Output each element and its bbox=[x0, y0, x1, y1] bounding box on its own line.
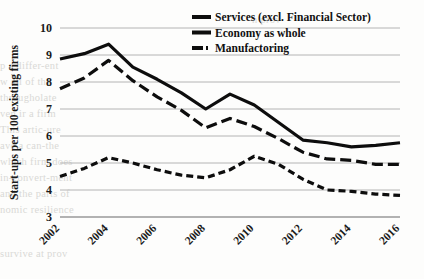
y-tick-label: 8 bbox=[46, 75, 52, 89]
series-lines bbox=[60, 44, 400, 195]
y-tick-label: 9 bbox=[46, 48, 52, 62]
y-axis-title: Start-ups per 100 existing firms bbox=[8, 44, 21, 200]
chart-legend: Services (excl. Financial Sector)Economy… bbox=[192, 11, 371, 55]
x-tick-label: 2006 bbox=[134, 222, 159, 247]
y-axis-tick-labels: 345678910 bbox=[40, 21, 52, 224]
x-tick-label: 2016 bbox=[377, 222, 402, 247]
y-tick-label: 6 bbox=[46, 129, 52, 143]
y-tick-label: 10 bbox=[40, 21, 52, 35]
line-chart: 345678910 200220042006200820102012201420… bbox=[0, 0, 424, 279]
x-tick-label: 2002 bbox=[37, 222, 62, 247]
gridlines bbox=[60, 28, 400, 217]
x-tick-label: 2004 bbox=[85, 222, 110, 247]
legend-label: Manufactoring bbox=[215, 42, 289, 55]
legend-label: Economy as whole bbox=[215, 27, 306, 40]
legend-label: Services (excl. Financial Sector) bbox=[215, 11, 371, 24]
y-tick-label: 3 bbox=[46, 210, 52, 224]
x-tick-label: 2014 bbox=[328, 222, 353, 247]
series-line-0 bbox=[60, 44, 400, 147]
x-tick-label: 2008 bbox=[182, 222, 207, 247]
chart-figure: n prov p a differ-ent w all of the throu… bbox=[0, 0, 424, 279]
x-axis-tick-labels: 20022004200620082010201220142016 bbox=[37, 222, 402, 247]
y-tick-label: 5 bbox=[46, 156, 52, 170]
y-axis-title-text: Start-ups per 100 existing firms bbox=[8, 44, 21, 200]
x-tick-label: 2010 bbox=[231, 222, 256, 247]
y-tick-label: 4 bbox=[46, 183, 52, 197]
series-line-1 bbox=[60, 60, 400, 164]
y-tick-label: 7 bbox=[46, 102, 52, 116]
x-tick-label: 2012 bbox=[280, 222, 305, 247]
